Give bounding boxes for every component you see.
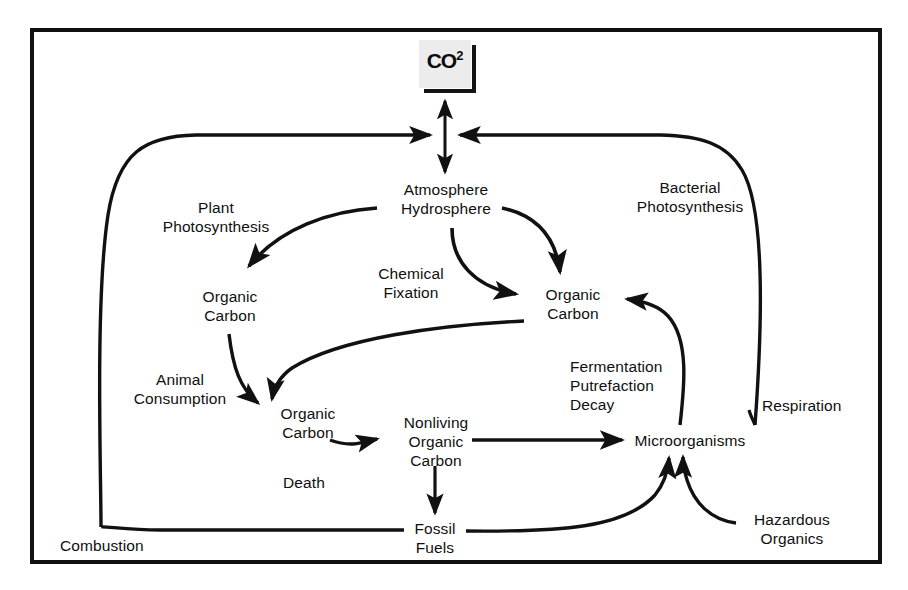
node-organic-carbon-mid: Organic Carbon [263,404,353,442]
node-organic-carbon-left: Organic Carbon [185,287,275,325]
co2-label: CO2 [419,48,471,73]
arrow-hazardous-organics-to-microorganisms [683,457,736,523]
edge-label-chemical-fixation: Chemical Fixation [356,264,466,302]
line-combustion-to-left-loop [101,527,404,530]
node-fossil-fuels: Fossil Fuels [399,519,471,557]
edge-label-respiration: Respiration [762,396,872,415]
carbon-cycle-diagram: CO2 Atmosphere Hydrosphere Organic Carbo… [0,0,908,590]
node-atmosphere-hydrosphere: Atmosphere Hydrosphere [381,180,511,218]
node-organic-carbon-right: Organic Carbon [528,285,618,323]
node-hazardous-organics: Hazardous Organics [740,510,844,548]
edge-label-combustion: Combustion [60,536,180,555]
edge-label-plant-photosynthesis: Plant Photosynthesis [146,198,286,236]
edge-label-bacterial-photosynthesis: Bacterial Photosynthesis [620,178,760,216]
edge-label-death: Death [264,473,344,492]
node-nonliving-organic-carbon: Nonliving Organic Carbon [390,413,482,470]
node-microorganisms: Microorganisms [620,431,760,450]
arrow-organic-carbon-right-to-mid [272,321,524,399]
arrow-fossil-fuels-to-microorganisms [466,458,669,531]
edge-label-fermentation-putrefaction-decay: Fermentation Putrefaction Decay [570,357,700,414]
edge-label-animal-consumption: Animal Consumption [110,370,250,408]
